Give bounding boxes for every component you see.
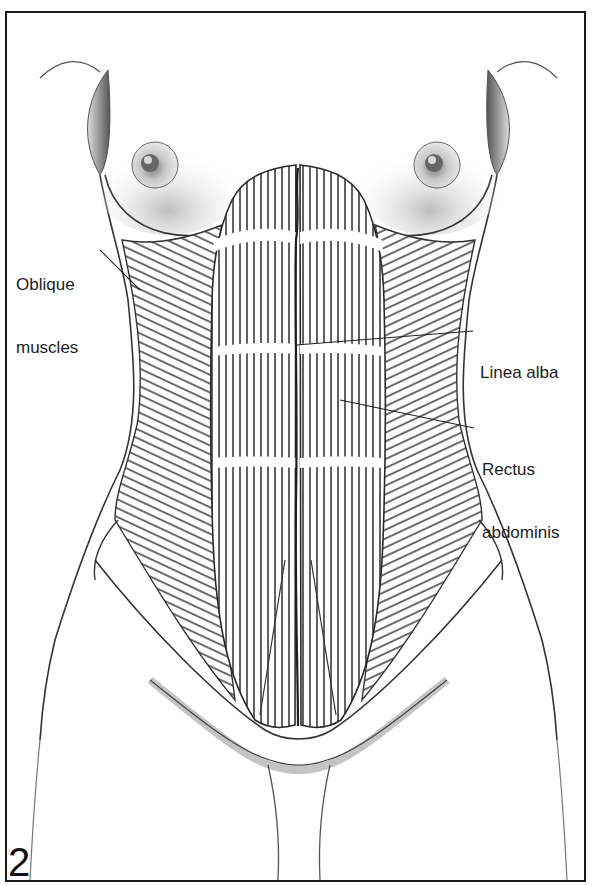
label-oblique-line2: muscles bbox=[16, 337, 78, 358]
label-linea-alba-text: Linea alba bbox=[480, 362, 558, 383]
label-oblique-line1: Oblique bbox=[16, 274, 78, 295]
label-rectus-line1: Rectus bbox=[482, 459, 560, 480]
label-linea-alba: Linea alba bbox=[480, 320, 558, 404]
leg-divide-left bbox=[268, 765, 279, 880]
linea-alba bbox=[295, 168, 298, 726]
tendinous-intersection-3 bbox=[213, 457, 296, 469]
label-oblique-muscles: Oblique muscles bbox=[16, 232, 78, 379]
label-rectus-abdominis: Rectus abdominis bbox=[482, 417, 560, 564]
figure-number: 2 bbox=[8, 842, 30, 882]
label-rectus-line2: abdominis bbox=[482, 522, 560, 543]
leg-divide-right bbox=[319, 765, 330, 880]
